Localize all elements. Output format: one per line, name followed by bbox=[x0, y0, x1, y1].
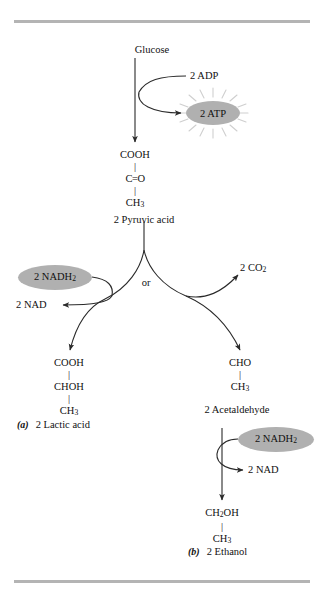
pyruvate-line-2: C=O bbox=[125, 173, 144, 184]
lactate-line-2: CHOH bbox=[54, 381, 84, 392]
lactate-bond-2: | bbox=[54, 393, 84, 404]
lactic-acid-formula: COOH | CHOH | CH3 bbox=[54, 356, 84, 419]
acetaldehyde-line-2: CH3 bbox=[231, 381, 249, 392]
co2-label: 2 CO2 bbox=[240, 262, 266, 276]
nad-label-ethanol: 2 NAD bbox=[248, 464, 279, 476]
acetaldehyde-label: 2 Acetaldehyde bbox=[204, 404, 269, 416]
pyruvate-bond-1: | bbox=[120, 161, 150, 172]
arrow-nadh-into-ethanol bbox=[218, 439, 238, 450]
lactate-line-1: COOH bbox=[54, 357, 84, 368]
arrow-to-lactic-acid bbox=[70, 299, 105, 350]
glucose-label: Glucose bbox=[135, 44, 169, 56]
caption-tag-a: (a) bbox=[17, 419, 29, 430]
figure-page: Glucose 2 ADP 2 ATP COOH | C=O | CH3 2 P… bbox=[0, 0, 324, 594]
caption-text-a: 2 Lactic acid bbox=[29, 419, 90, 430]
acetaldehyde-line-1: CHO bbox=[229, 357, 251, 368]
nad-label-lactate: 2 NAD bbox=[16, 299, 47, 311]
arrow-nad-out-left bbox=[63, 296, 112, 305]
pyruvate-bond-2: | bbox=[120, 185, 150, 196]
atp-badge: 2 ATP bbox=[186, 101, 240, 125]
lactate-bond-1: | bbox=[54, 369, 84, 380]
ethanol-line-1: CH2OH bbox=[205, 507, 239, 518]
nadh-badge-lactate: 2 NADH2 bbox=[18, 265, 92, 290]
atp-label: 2 ATP bbox=[200, 108, 226, 119]
ethanol-line-2: CH3 bbox=[213, 533, 231, 544]
lactate-line-3: CH3 bbox=[60, 405, 78, 416]
nadh-label-lactate: 2 NADH2 bbox=[34, 271, 76, 283]
arrow-adp-in bbox=[139, 76, 186, 92]
fork-right-limb bbox=[144, 250, 186, 296]
ethanol-formula: CH2OH | CH3 bbox=[205, 506, 239, 548]
arrow-to-acetaldehyde bbox=[186, 296, 240, 350]
ethanol-bond-1: | bbox=[205, 521, 239, 532]
lactic-acid-caption: (a)2 Lactic acid bbox=[17, 419, 90, 431]
pyruvate-line-3: CH3 bbox=[126, 197, 144, 208]
ethanol-caption: (b)2 Ethanol bbox=[188, 546, 247, 558]
pyruvic-acid-label: 2 Pyruvic acid bbox=[114, 214, 175, 226]
metabolic-pathway-arrows bbox=[0, 0, 324, 594]
arrow-nad-out-right bbox=[217, 450, 243, 470]
caption-tag-b: (b) bbox=[188, 546, 200, 557]
arrow-co2-out bbox=[186, 275, 238, 297]
adp-label: 2 ADP bbox=[190, 70, 218, 82]
pyruvic-acid-formula: COOH | C=O | CH3 bbox=[120, 148, 150, 211]
caption-text-b: 2 Ethanol bbox=[200, 546, 248, 557]
nadh-badge-ethanol: 2 NADH2 bbox=[238, 427, 314, 452]
branch-or-label: or bbox=[142, 277, 151, 289]
acetaldehyde-formula: CHO | CH3 bbox=[229, 356, 251, 395]
acetaldehyde-bond-1: | bbox=[229, 369, 251, 380]
pyruvate-line-1: COOH bbox=[120, 149, 150, 160]
arrow-atp-out bbox=[139, 92, 181, 113]
arrow-nadh-into-lactate bbox=[92, 277, 112, 296]
fork-left-limb bbox=[105, 250, 144, 299]
nadh-label-ethanol: 2 NADH2 bbox=[255, 433, 297, 445]
